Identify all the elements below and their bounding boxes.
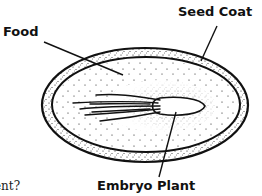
seed-coat-leader-line	[201, 26, 217, 61]
question-text-fragment: ent?	[0, 179, 20, 193]
seed-diagram	[0, 0, 262, 196]
food-label: Food	[3, 25, 39, 38]
seed-coat-label: Seed Coat	[178, 5, 252, 18]
embryo-plant-label: Embryo Plant	[97, 179, 195, 192]
